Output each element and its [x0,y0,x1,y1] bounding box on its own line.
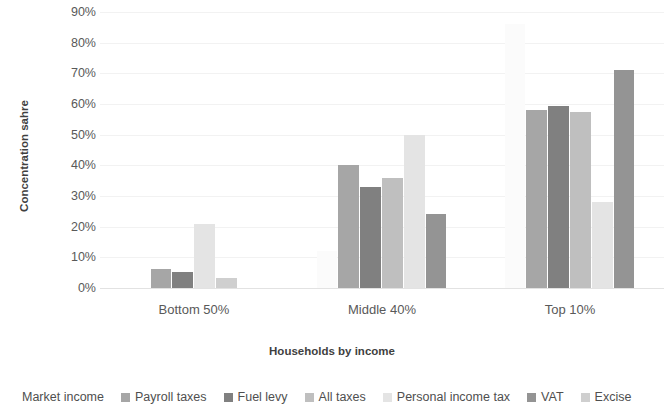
legend-item-label: Fuel levy [238,390,288,404]
y-axis-tick-label: 30% [52,189,96,203]
legend-item-label: Excise [595,390,632,404]
y-axis-tick-label: 90% [52,5,96,19]
plot-area [100,12,664,288]
legend-swatch-icon [305,393,314,402]
bar[interactable] [526,110,547,288]
bar-group [505,12,636,288]
y-axis-tick-labels: 0%10%20%30%40%50%60%70%80%90% [52,0,96,300]
bar[interactable] [614,70,635,288]
bar-group [317,12,448,288]
bar[interactable] [570,112,591,288]
legend-swatch-icon [581,393,590,402]
x-axis-category-label: Middle 40% [288,302,476,317]
bar[interactable] [548,106,569,288]
bar-chart-figure: Concentration sahre 0%10%20%30%40%50%60%… [0,0,664,409]
bar[interactable] [426,214,447,288]
bar[interactable] [194,224,215,288]
legend-swatch-icon [224,393,233,402]
bar[interactable] [360,187,381,288]
legend-item-label: Payroll taxes [135,390,207,404]
y-axis-tick-label: 80% [52,36,96,50]
bar[interactable] [317,251,338,288]
legend-swatch-icon [527,393,536,402]
legend-swatch-icon [383,393,392,402]
axis-baseline [100,288,664,289]
legend-swatch-icon [121,393,130,402]
plot-canvas [100,12,664,288]
bar[interactable] [216,278,237,288]
bar[interactable] [338,165,359,288]
legend-item-label: Personal income tax [397,390,510,404]
bar[interactable] [172,272,193,288]
bar[interactable] [151,269,172,288]
y-axis-tick-label: 50% [52,128,96,142]
y-axis-tick-label: 60% [52,97,96,111]
bar-group-bars [317,12,448,288]
x-axis-category-label: Top 10% [476,302,664,317]
legend-item[interactable]: Fuel levy [224,390,288,404]
bar-group-bars [505,12,636,288]
x-axis-title: Households by income [0,345,664,357]
bar-group [151,12,238,288]
bar[interactable] [404,135,425,288]
y-axis-tick-label: 70% [52,66,96,80]
y-axis-tick-label: 20% [52,220,96,234]
y-axis-tick-label: 10% [52,250,96,264]
bar[interactable] [505,24,526,288]
legend-item-label: All taxes [319,390,366,404]
legend-item[interactable]: Personal income tax [383,390,510,404]
legend-item[interactable]: VAT [527,390,563,404]
legend-item[interactable]: Market income [22,390,104,404]
bar[interactable] [382,178,403,288]
legend-item[interactable]: Excise [581,390,632,404]
y-axis-title: Concentration sahre [18,36,30,276]
legend-item[interactable]: Payroll taxes [121,390,207,404]
legend-item[interactable]: All taxes [305,390,366,404]
y-axis-tick-label: 40% [52,158,96,172]
legend-item-label: VAT [541,390,563,404]
legend-item-label: Market income [22,390,104,404]
bar-group-bars [151,12,238,288]
y-axis-tick-label: 0% [52,281,96,295]
x-axis-category-label: Bottom 50% [100,302,288,317]
chart-legend: Market incomePayroll taxesFuel levyAll t… [0,386,664,408]
bar[interactable] [592,202,613,288]
